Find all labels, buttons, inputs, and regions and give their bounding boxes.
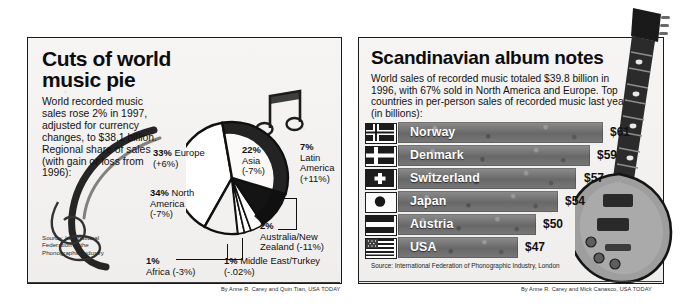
- bar-label-switzerland: Switzerland: [410, 171, 480, 185]
- pie-label-latin-america-change: (+11%): [300, 173, 330, 184]
- bar-label-denmark: Denmark: [410, 148, 464, 162]
- bar-value-japan: $54: [565, 194, 585, 208]
- bar-row-austria: Austria $50: [365, 214, 661, 236]
- bar-row-norway: Norway $61: [365, 122, 661, 144]
- pie-label-north-america-pct: 34%: [150, 187, 169, 198]
- pie-label-europe: 33% Europe (+6%): [153, 148, 219, 169]
- pie-label-africa-name: Africa: [146, 266, 170, 277]
- pie-label-asia-pct: 22%: [242, 144, 261, 155]
- pie-label-australia-nz: 2% Australia/New Zealand (-11%): [260, 221, 338, 253]
- pie-label-asia-change: (-7%): [242, 165, 265, 176]
- bar-row-switzerland: Switzerland $57: [365, 168, 661, 190]
- bar-label-japan: Japan: [410, 194, 446, 208]
- right-panel-byline: By Anne R. Carey and Mick Canasco, USA T…: [521, 286, 652, 292]
- bar-chart: Norway $61 Denmark $59: [365, 122, 661, 258]
- pie-label-australia-nz-pct: 2%: [260, 220, 274, 231]
- pie-label-north-america-change: (-7%): [150, 208, 173, 219]
- right-panel-title: Scandinavian album notes: [371, 48, 651, 68]
- bar-label-norway: Norway: [410, 125, 455, 139]
- right-panel-divider: [358, 281, 662, 282]
- right-panel-intro: World sales of recorded music totaled $3…: [371, 73, 627, 119]
- austria-flag-icon: [365, 215, 397, 236]
- bar-value-austria: $50: [543, 217, 563, 231]
- bar-value-switzerland: $57: [584, 171, 604, 185]
- infographic-page: Cuts of world music pie World recorded m…: [0, 0, 692, 304]
- left-panel-divider: [27, 282, 340, 283]
- pie-label-asia: 22% Asia (-7%): [242, 145, 294, 177]
- pie-label-europe-name: Europe: [174, 147, 204, 158]
- pie-label-asia-name: Asia: [242, 155, 260, 166]
- bar-row-usa: USA $47: [365, 237, 661, 259]
- bar-value-denmark: $59: [597, 148, 617, 162]
- pie-label-latin-america: 7% Latin America (+11%): [300, 142, 342, 184]
- leader-line-latin-h: [280, 198, 297, 199]
- pie-label-australia-nz-change: (-11%): [297, 241, 324, 252]
- usa-flag-icon: [365, 238, 397, 259]
- denmark-flag-icon: [365, 146, 397, 167]
- pie-label-north-america: 34% North America (-7%): [150, 188, 214, 220]
- bar-row-japan: Japan $54: [365, 191, 661, 213]
- left-panel-title: Cuts of world music pie: [42, 48, 222, 90]
- pie-label-africa-change: (-3%): [173, 266, 196, 277]
- pie-label-africa-pct: 1%: [146, 255, 160, 266]
- pie-label-africa: 1% Africa (-3%): [146, 256, 218, 277]
- japan-flag-icon: [365, 192, 397, 213]
- right-panel-source: Source: International Federation of Phon…: [371, 262, 651, 270]
- pie-label-latin-america-pct: 7%: [300, 141, 314, 152]
- bar-label-austria: Austria: [410, 217, 453, 231]
- pie-label-middle-east-pct: 1%: [224, 255, 238, 266]
- pie-label-middle-east: 1% Middle East/Turkey (-.02%): [224, 256, 328, 277]
- left-panel-world-music-pie: Cuts of world music pie World recorded m…: [27, 37, 342, 284]
- pie-label-europe-pct: 33%: [153, 147, 172, 158]
- pie-label-latin-america-name: Latin America: [300, 152, 334, 174]
- bar-row-denmark: Denmark $59: [365, 145, 661, 167]
- left-panel-source: Source: International Federation of the …: [42, 234, 126, 256]
- norway-flag-icon: [365, 123, 397, 144]
- pie-label-middle-east-change: (-.02%): [224, 266, 255, 277]
- left-panel-byline: By Anne R. Carey and Quin Tian, USA TODA…: [221, 286, 340, 292]
- bar-label-usa: USA: [410, 240, 436, 254]
- bar-value-usa: $47: [525, 240, 545, 254]
- bar-value-norway: $61: [610, 125, 630, 139]
- left-panel-intro: World recorded music sales rose 2% in 19…: [42, 96, 167, 179]
- right-panel-album-notes: Scandinavian album notes World sales of …: [358, 37, 664, 284]
- switzerland-flag-icon: [365, 169, 397, 190]
- pie-label-middle-east-name: Middle East/Turkey: [240, 255, 320, 266]
- pie-label-europe-change: (+6%): [153, 158, 178, 169]
